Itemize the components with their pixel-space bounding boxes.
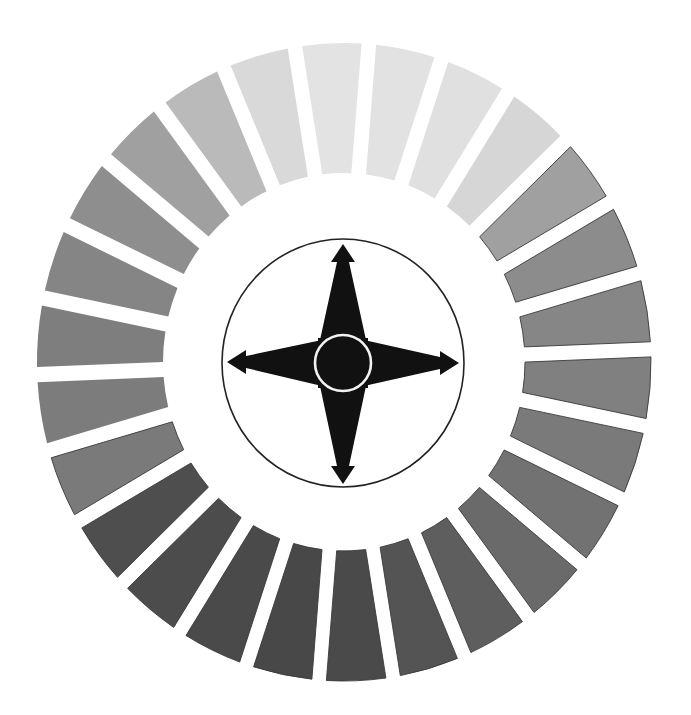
ring-segment-0: [302, 43, 362, 174]
color-wheel-svg: [0, 0, 691, 715]
compass-diagram: [0, 0, 691, 715]
compass-rose: [222, 239, 464, 487]
ring-segment-20: [37, 306, 165, 368]
ring-segment-13: [326, 550, 386, 681]
ring-segment-7: [523, 357, 651, 419]
compass-center-circle: [315, 335, 371, 391]
